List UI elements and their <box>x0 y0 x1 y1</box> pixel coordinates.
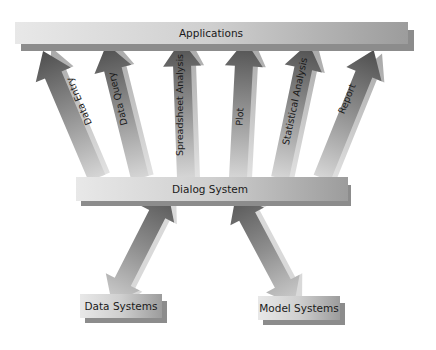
dialog-system-label: Dialog System <box>172 183 248 195</box>
data-systems-label: Data Systems <box>84 300 157 312</box>
arrow-label-spreadsheet-analysis: Spreadsheet Analysis <box>174 54 185 156</box>
arrow-plot: Plot <box>219 39 267 179</box>
arrow-label-plot: Plot <box>233 107 245 126</box>
dialog-system-box: Dialog System <box>76 177 351 206</box>
diagram-canvas: Data Entry Data Query Spreadsheet Analys… <box>0 0 436 350</box>
model-systems-box: Model Systems <box>258 296 345 325</box>
diagram-svg: Data Entry Data Query Spreadsheet Analys… <box>0 0 436 350</box>
arrow-spreadsheet-analysis: Spreadsheet Analysis <box>162 39 208 178</box>
applications-label: Applications <box>179 27 243 39</box>
model-systems-label: Model Systems <box>259 302 339 314</box>
applications-box: Applications <box>15 22 414 51</box>
data-systems-box: Data Systems <box>80 294 167 323</box>
